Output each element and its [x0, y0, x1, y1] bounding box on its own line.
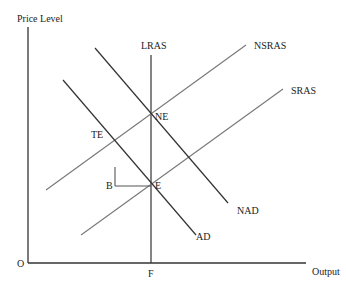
x-mark-f-label: F — [148, 269, 154, 279]
origin-label: O — [17, 259, 24, 269]
sras-label: SRAS — [291, 86, 316, 96]
ad-curve — [63, 80, 196, 235]
nsras-label: NSRAS — [254, 41, 286, 51]
ad-label: AD — [196, 232, 210, 242]
point-te-label: TE — [91, 130, 103, 140]
nad-label: NAD — [237, 206, 259, 216]
point-e-label: E — [155, 181, 161, 191]
diagram-canvas — [0, 0, 346, 293]
y-axis-label: Price Level — [17, 14, 63, 24]
point-ne-label: NE — [155, 112, 168, 122]
lras-label: LRAS — [141, 41, 167, 51]
x-axis-label: Output — [312, 267, 340, 277]
point-b-label: B — [106, 181, 113, 191]
nsras-curve — [46, 45, 246, 190]
